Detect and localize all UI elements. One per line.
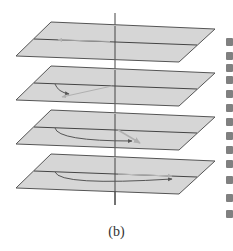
text-fragment bbox=[226, 194, 233, 202]
text-fragment bbox=[226, 146, 233, 154]
plane-2 bbox=[16, 66, 215, 106]
cropped-body-text-margin bbox=[226, 30, 233, 240]
text-fragment bbox=[226, 132, 233, 140]
text-fragment bbox=[226, 160, 233, 168]
text-fragment bbox=[226, 64, 233, 72]
text-fragment bbox=[226, 76, 233, 84]
text-fragment bbox=[226, 176, 233, 184]
text-fragment bbox=[226, 118, 233, 126]
text-fragment bbox=[226, 90, 233, 98]
plane-1 bbox=[16, 22, 215, 62]
plane-4 bbox=[16, 154, 215, 205]
text-fragment bbox=[226, 104, 233, 112]
stacked-planes-diagram bbox=[0, 0, 233, 251]
figure-caption: (b) bbox=[0, 224, 233, 240]
text-fragment bbox=[226, 210, 233, 218]
text-fragment bbox=[226, 52, 233, 60]
text-fragment bbox=[226, 38, 233, 46]
plane-3 bbox=[16, 110, 215, 150]
